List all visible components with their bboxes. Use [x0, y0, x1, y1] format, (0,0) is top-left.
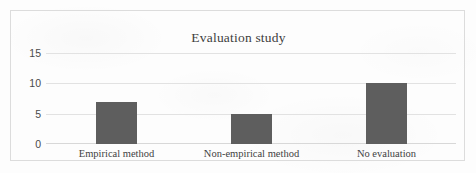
y-axis-tick-label: 0: [15, 139, 41, 150]
category-label-empirical-method: Empirical method: [56, 147, 177, 161]
bar-no-evaluation: [366, 83, 407, 144]
chart-title: Evaluation study: [11, 30, 466, 46]
chart-container: Evaluation study 15 10 5 0 Empirical met…: [10, 10, 465, 161]
y-axis-tick-label: 5: [15, 109, 41, 120]
plot-area: [46, 53, 456, 144]
y-axis-tick-label: 10: [15, 78, 41, 89]
bar-empirical-method: [96, 102, 137, 145]
y-axis: 15 10 5 0: [11, 53, 41, 144]
bar-non-empirical-method: [231, 114, 272, 144]
category-label-non-empirical-method: Non-empirical method: [191, 147, 312, 161]
x-axis-category-labels: Empirical method Non-empirical method No…: [46, 147, 456, 165]
category-label-no-evaluation: No evaluation: [326, 147, 447, 161]
y-axis-tick-label: 15: [15, 48, 41, 59]
gridline-15: [46, 53, 456, 54]
